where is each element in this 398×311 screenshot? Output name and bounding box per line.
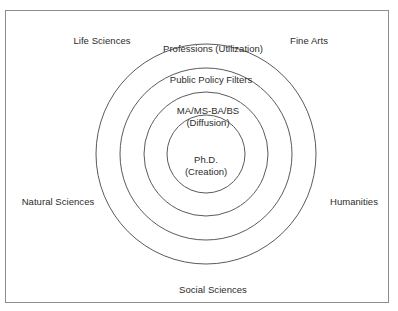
ring-label-public-policy-filters-text: Public Policy Filters [170, 74, 252, 85]
ring-label-phd-subtext: (Creation) [185, 166, 227, 178]
ring-label-masters-bachelors: MA/MS-BA/BS (Diffusion) [177, 105, 239, 128]
ring-label-professions-text: Professions (Utilization) [163, 43, 263, 54]
ring-label-masters-bachelors-text: MA/MS-BA/BS [177, 105, 239, 116]
discipline-label-fine-arts: Fine Arts [290, 35, 328, 47]
ring-label-public-policy-filters: Public Policy Filters [170, 74, 252, 86]
diagram-canvas: Professions (Utilization) Public Policy … [0, 0, 398, 311]
discipline-label-humanities: Humanities [330, 196, 378, 208]
ring-label-phd-text: Ph.D. [194, 154, 218, 165]
ring-label-professions: Professions (Utilization) [163, 43, 263, 55]
ring-label-phd: Ph.D. (Creation) [185, 154, 227, 177]
discipline-label-social-sciences: Social Sciences [179, 284, 247, 296]
discipline-label-natural-sciences: Natural Sciences [22, 196, 95, 208]
discipline-label-life-sciences: Life Sciences [73, 35, 130, 47]
ring-label-masters-bachelors-subtext: (Diffusion) [177, 117, 239, 129]
